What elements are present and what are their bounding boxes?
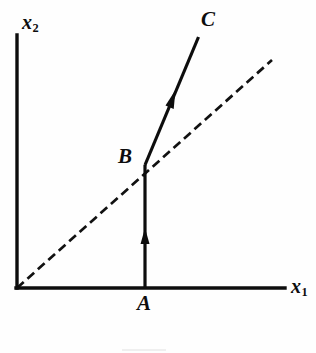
arrowhead-up-icon: [141, 228, 150, 244]
point-label-c: C: [201, 9, 215, 30]
y-axis-label-subscript: 2: [32, 21, 39, 35]
arrowhead-up-right-icon: [166, 90, 176, 109]
x-axis-label: x1: [291, 276, 308, 298]
x-axis-label-subscript: 1: [301, 285, 308, 299]
economics-diagram: x2 x1 A B C: [0, 0, 316, 353]
point-label-a: A: [137, 293, 151, 314]
page-artifact: [122, 349, 166, 351]
y-axis-label: x2: [22, 12, 39, 34]
point-label-b: B: [118, 146, 132, 167]
x-axis-label-text: x: [291, 275, 301, 297]
diagram-canvas: [0, 0, 316, 353]
y-axis-label-text: x: [22, 11, 32, 33]
